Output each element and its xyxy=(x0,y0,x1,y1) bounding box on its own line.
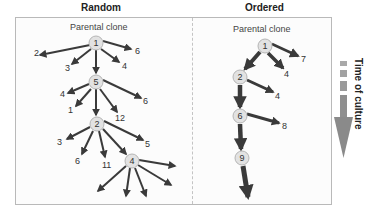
random-edges xyxy=(40,41,175,196)
ordered-edge-label: 4 xyxy=(284,69,289,79)
random-edge-label: 4 xyxy=(122,61,127,71)
ordered-edge-arrow xyxy=(272,44,298,56)
ordered-edge-label: 4 xyxy=(275,91,280,101)
random-edge-label: 4 xyxy=(60,89,65,99)
ordered-edge-label: 8 xyxy=(282,121,287,131)
random-edge-arrow xyxy=(135,168,146,196)
random-edge-arrow xyxy=(126,168,130,196)
clone-node-label: 1 xyxy=(93,38,98,48)
ordered-edge-label: 7 xyxy=(301,54,306,64)
random-edge-arrow xyxy=(82,131,93,154)
ordered-edge-arrow xyxy=(240,124,241,149)
random-edge-arrow xyxy=(67,127,90,139)
random-edge-arrow xyxy=(76,89,91,106)
random-edge-label: 11 xyxy=(102,160,111,170)
random-edge-arrow xyxy=(40,45,90,55)
edge-labels: 234641126361154748 xyxy=(34,46,306,170)
ordered-edges xyxy=(240,44,298,197)
lineage-diagram: 15241269 234641126361154748 xyxy=(0,0,378,213)
clone-node-label: 5 xyxy=(93,77,98,87)
random-edge-label: 3 xyxy=(65,63,70,73)
random-edge-arrow xyxy=(72,49,91,64)
ordered-edge-arrow xyxy=(268,53,283,68)
clone-node-label: 4 xyxy=(129,156,134,166)
ordered-edge-arrow xyxy=(247,114,279,123)
clone-node-label: 1 xyxy=(262,41,267,51)
random-edge-arrow xyxy=(68,84,89,93)
ordered-edge-arrow xyxy=(247,80,273,92)
random-edge-label: 12 xyxy=(115,113,125,123)
clone-node-label: 2 xyxy=(94,119,99,129)
random-edge-arrow xyxy=(101,49,119,62)
random-edge-arrow xyxy=(103,41,131,49)
clone-node-label: 9 xyxy=(239,153,244,163)
random-edge-arrow xyxy=(139,160,175,166)
ordered-edge-arrow xyxy=(245,52,260,69)
random-edge-arrow xyxy=(99,131,105,157)
random-edge-arrow xyxy=(138,165,171,185)
clone-node-label: 2 xyxy=(237,72,242,82)
random-edge-arrow xyxy=(103,129,126,154)
ordered-edge-arrow xyxy=(243,166,248,197)
random-edge-label: 3 xyxy=(57,137,62,147)
clone-node-label: 6 xyxy=(237,111,242,121)
random-edge-label: 6 xyxy=(75,156,80,166)
random-edge-label: 2 xyxy=(34,48,39,58)
random-edge-arrow xyxy=(100,89,117,112)
clone-nodes: 15241269 xyxy=(89,36,272,168)
time-of-culture-label: Time of culture xyxy=(353,58,364,130)
down-arrow-icon xyxy=(334,61,353,158)
random-edge-label: 6 xyxy=(135,46,140,56)
random-edge-arrow xyxy=(103,80,141,98)
random-edge-label: 5 xyxy=(145,139,150,149)
random-edge-label: 6 xyxy=(143,96,148,106)
random-edge-label: 1 xyxy=(68,105,73,115)
